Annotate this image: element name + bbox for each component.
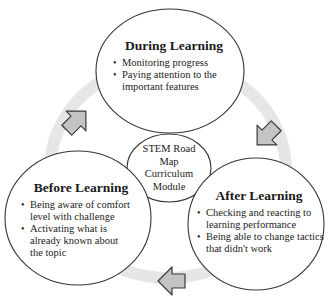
after-learning-node: After Learning Checking and reacting to … [194, 188, 324, 255]
before-learning-list: Being aware of comfort level with challe… [16, 199, 146, 259]
during-learning-node: During Learning Monitoring progress Payi… [104, 38, 244, 93]
center-line: Curriculum [129, 168, 209, 181]
list-item: Activating what is already known about t… [20, 223, 130, 259]
center-line: Map [129, 156, 209, 169]
after-learning-list: Checking and reacting to learning perfor… [194, 207, 324, 255]
arrow-after-to-before-icon [158, 267, 185, 295]
during-learning-list: Monitoring progress Paying attention to … [104, 57, 244, 93]
before-learning-node: Before Learning Being aware of comfort l… [16, 180, 146, 259]
center-line: STEM Road [129, 143, 209, 156]
list-item: Checking and reacting to learning perfor… [196, 207, 324, 231]
list-item: Being able to change tactics that didn't… [196, 231, 324, 255]
during-learning-title: During Learning [104, 38, 244, 54]
list-item: Monitoring progress [112, 57, 244, 69]
list-item: Paying attention to the important featur… [112, 69, 240, 93]
before-learning-title: Before Learning [16, 180, 146, 196]
list-item: Being aware of comfort level with challe… [20, 199, 142, 223]
after-learning-title: After Learning [194, 188, 324, 204]
